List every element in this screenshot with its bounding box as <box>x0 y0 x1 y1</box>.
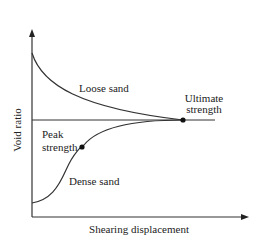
dense-sand-label: Dense sand <box>69 175 120 187</box>
x-axis-arrow-icon <box>241 214 249 220</box>
x-axis-label: Shearing displacement <box>89 223 189 235</box>
ultimate-strength-point <box>180 117 185 122</box>
peak-label-line1: Peak <box>42 128 64 140</box>
y-axis-arrow-icon <box>29 29 35 37</box>
peak-strength-point <box>79 144 84 149</box>
y-axis-label: Void ratio <box>11 108 23 152</box>
peak-label-line2: strength <box>42 141 78 153</box>
void-ratio-diagram: Loose sand Dense sand Peak strength Ulti… <box>0 0 256 246</box>
loose-sand-label: Loose sand <box>79 82 129 94</box>
ultimate-label-line2: strength <box>186 103 222 115</box>
